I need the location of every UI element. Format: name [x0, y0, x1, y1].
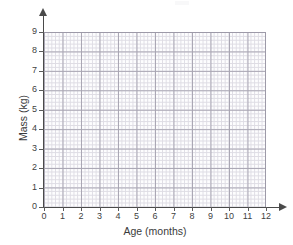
y-tick: [39, 188, 44, 189]
top-edge-artifact: [175, 1, 189, 5]
y-tick-label: 9: [24, 26, 37, 37]
y-axis-title: Mass (kg): [17, 48, 29, 188]
y-tick: [39, 129, 44, 130]
y-tick: [39, 71, 44, 72]
empty-graph-paper-chart: 0123456789101112 0123456789 Age (months)…: [0, 0, 293, 245]
x-tick-label: 12: [255, 211, 277, 222]
x-axis-line: [43, 207, 279, 208]
x-axis-title: Age (months): [44, 225, 266, 237]
y-tick: [39, 110, 44, 111]
y-tick-label: 0: [24, 201, 37, 212]
y-tick: [39, 149, 44, 150]
y-axis-line: [43, 14, 44, 208]
x-axis-arrow-icon: [279, 203, 287, 211]
y-axis-arrow-icon: [39, 8, 47, 16]
y-tick: [39, 90, 44, 91]
plot-area: [44, 32, 266, 207]
y-tick: [39, 32, 44, 33]
major-gridlines: [44, 32, 266, 207]
y-tick: [39, 51, 44, 52]
grid-top-border: [44, 32, 266, 33]
y-tick: [39, 207, 44, 208]
y-tick: [39, 168, 44, 169]
grid-right-border: [265, 32, 266, 207]
